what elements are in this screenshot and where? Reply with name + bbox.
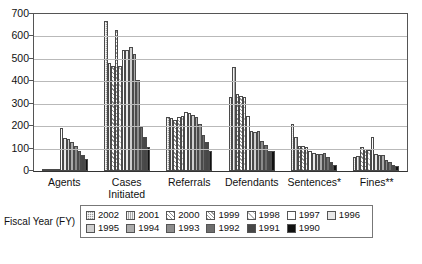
legend-item-1991[interactable]: 1991 [247,223,280,233]
bar-group-referrals [158,14,220,171]
bar-1990 [147,147,151,171]
bar-group-sentences [283,14,345,171]
y-axis: 7006005004003002001000 [0,6,29,179]
bar-group-agents [34,14,96,171]
y-tick-label-100: 100 [11,143,29,154]
legend-swatch-1993 [166,224,175,233]
legend-swatch-1992 [206,224,215,233]
legend-item-1994[interactable]: 1994 [126,223,159,233]
legend-label-1994: 1994 [138,223,159,233]
legend-swatch-1994 [126,224,135,233]
x-label-defendants: Defendants [221,176,284,200]
legend-item-1997[interactable]: 1997 [287,210,320,220]
legend-label-1992: 1992 [218,223,239,233]
x-axis-labels: AgentsCasesInitiatedReferralsDefendantsS… [33,176,408,200]
x-label-agents: Agents [33,176,96,200]
gridline-400 [34,81,407,82]
chart-container: 7006005004003002001000 AgentsCasesInitia… [0,0,422,264]
legend-item-1996[interactable]: 1996 [327,210,360,220]
bar-1990 [271,151,275,171]
legend-row-1: 2002200120001999199819971996 [86,210,367,220]
legend-swatch-1997 [287,211,296,220]
x-label-fines: Fines** [346,176,409,200]
bar-group-cases-initiated [96,14,158,171]
legend-label-1991: 1991 [259,223,280,233]
legend-swatch-1995 [86,224,95,233]
y-tick-label-200: 200 [11,120,29,131]
legend-label-1996: 1996 [339,210,360,220]
y-tick-label-300: 300 [11,98,29,109]
legend-swatch-2001 [126,211,135,220]
gridline-200 [34,126,407,127]
bar-1990 [395,166,399,171]
legend-label-1998: 1998 [259,210,280,220]
gridline-300 [34,104,407,105]
y-tick-label-500: 500 [11,53,29,64]
legend-item-2001[interactable]: 2001 [126,210,159,220]
legend-swatch-1998 [247,211,256,220]
legend-box: 2002200120001999199819971996 19951994199… [80,205,373,238]
gridline-600 [34,36,407,37]
legend-item-1990[interactable]: 1990 [287,223,320,233]
plot-area [33,13,408,172]
legend-label-1993: 1993 [178,223,199,233]
y-tick-label-400: 400 [11,75,29,86]
legend-swatch-1999 [206,211,215,220]
legend-item-1998[interactable]: 1998 [247,210,280,220]
legend-label-2002: 2002 [98,210,119,220]
x-label-sentences: Sentences* [283,176,346,200]
bar-group-fines [345,14,407,171]
legend-item-1993[interactable]: 1993 [166,223,199,233]
bar-groups [34,14,407,171]
bar-group-defendants [221,14,283,171]
legend-row-2: 199519941993199219911990 [86,223,367,233]
gridline-100 [34,149,407,150]
legend-item-1992[interactable]: 1992 [206,223,239,233]
bar-1990 [209,151,213,171]
legend-label-1990: 1990 [299,223,320,233]
legend-label-2000: 2000 [178,210,199,220]
gridline-500 [34,59,407,60]
legend-swatch-2000 [166,211,175,220]
legend-label-1995: 1995 [98,223,119,233]
legend-title: Fiscal Year (FY) [0,216,80,227]
legend-label-2001: 2001 [138,210,159,220]
legend-label-1999: 1999 [218,210,239,220]
bar-1990 [333,165,337,171]
y-tick-label-700: 700 [11,8,29,19]
legend-swatch-2002 [86,211,95,220]
y-tick-label-600: 600 [11,30,29,41]
x-label-referrals: Referrals [158,176,221,200]
legend-item-1999[interactable]: 1999 [206,210,239,220]
legend: Fiscal Year (FY) 20022001200019991998199… [0,205,422,238]
x-label-cases-initiated: CasesInitiated [96,176,159,200]
legend-item-2002[interactable]: 2002 [86,210,119,220]
bar-1990 [85,159,89,171]
legend-swatch-1990 [287,224,296,233]
legend-item-1995[interactable]: 1995 [86,223,119,233]
legend-item-2000[interactable]: 2000 [166,210,199,220]
legend-label-1997: 1997 [299,210,320,220]
legend-swatch-1991 [247,224,256,233]
legend-swatch-1996 [327,211,336,220]
